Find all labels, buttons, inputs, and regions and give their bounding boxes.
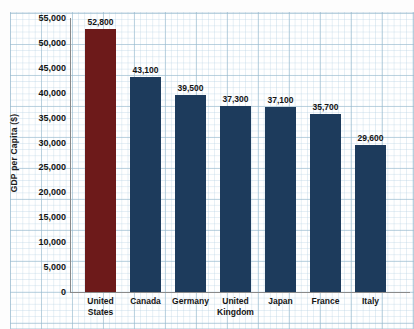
x-axis-category-label: UnitedKingdom bbox=[212, 296, 259, 317]
y-axis-tick-label: 10,000 bbox=[6, 237, 66, 247]
bar[interactable]: 43,100 bbox=[130, 77, 161, 292]
y-axis-tick-label: 25,000 bbox=[6, 162, 66, 172]
x-axis-category-label: UnitedStates bbox=[77, 296, 124, 317]
x-axis-category-label: Canada bbox=[122, 296, 169, 307]
x-axis-category-label: France bbox=[302, 296, 349, 307]
y-axis-tick-label: 15,000 bbox=[6, 212, 66, 222]
y-axis-tick-label: 40,000 bbox=[6, 88, 66, 98]
bar-group: 29,600Italy bbox=[348, 18, 393, 292]
y-axis-tick-label: 45,000 bbox=[6, 63, 66, 73]
bar-value-label: 37,300 bbox=[223, 94, 249, 104]
y-axis-tick-label: 20,000 bbox=[6, 187, 66, 197]
y-axis-tick-label: 50,000 bbox=[6, 38, 66, 48]
bar-group: 35,700France bbox=[303, 18, 348, 292]
chart-screenshot: GDP per Capita ($) 55,00050,00045,00040,… bbox=[0, 0, 414, 329]
plot-area: 55,00050,00045,00040,00035,00030,00025,0… bbox=[70, 18, 410, 292]
y-axis-tick-label: 35,000 bbox=[6, 113, 66, 123]
bar-group: 39,500Germany bbox=[168, 18, 213, 292]
bar-value-label: 39,500 bbox=[178, 83, 204, 93]
bar[interactable]: 37,300 bbox=[220, 106, 251, 292]
bar-group: 37,300UnitedKingdom bbox=[213, 18, 258, 292]
clipped-chart-title bbox=[0, 0, 414, 2]
bar-value-label: 29,600 bbox=[358, 133, 384, 143]
x-axis-category-label: Japan bbox=[257, 296, 304, 307]
y-axis-tick-label: 55,000 bbox=[6, 13, 66, 23]
bar-value-label: 43,100 bbox=[133, 65, 159, 75]
bar-value-label: 37,100 bbox=[268, 95, 294, 105]
bar-group: 52,800UnitedStates bbox=[78, 18, 123, 292]
bar-value-label: 52,800 bbox=[88, 17, 114, 27]
bar[interactable]: 37,100 bbox=[265, 107, 296, 292]
bar[interactable]: 35,700 bbox=[310, 114, 341, 292]
x-axis-category-label: Germany bbox=[167, 296, 214, 307]
bar[interactable]: 39,500 bbox=[175, 95, 206, 292]
y-axis-tick-label: 0 bbox=[6, 287, 66, 297]
bar-group: 43,100Canada bbox=[123, 18, 168, 292]
bar-group: 37,100Japan bbox=[258, 18, 303, 292]
y-axis-tick-label: 30,000 bbox=[6, 138, 66, 148]
bar[interactable]: 29,600 bbox=[355, 145, 386, 292]
bar[interactable]: 52,800 bbox=[85, 29, 116, 292]
bar-value-label: 35,700 bbox=[313, 102, 339, 112]
y-axis-tick-label: 5,000 bbox=[6, 262, 66, 272]
x-axis-line bbox=[70, 292, 410, 293]
x-axis-category-label: Italy bbox=[347, 296, 394, 307]
